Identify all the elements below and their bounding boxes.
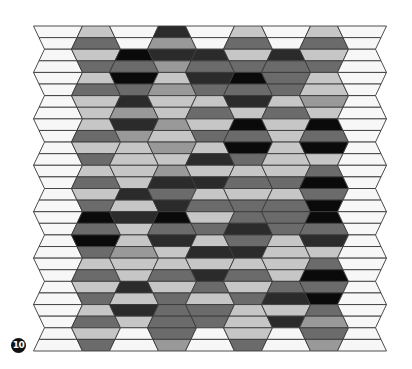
- stripe-segment: [115, 281, 153, 293]
- stripe-segment: [305, 119, 343, 131]
- stripe-segment: [305, 26, 343, 38]
- stripe-segment: [153, 339, 191, 351]
- stripe-segment: [229, 293, 267, 305]
- stripe-segment: [191, 270, 229, 282]
- stripe-segment: [267, 142, 305, 154]
- stripe-segment: [305, 247, 343, 259]
- stripe-segment: [262, 72, 311, 84]
- stripe-segment: [343, 189, 381, 201]
- stripe-segment: [338, 26, 387, 38]
- stripe-segment: [39, 235, 77, 247]
- stripe-segment: [229, 339, 267, 351]
- stripe-segment: [267, 223, 305, 235]
- stripe-segment: [115, 96, 153, 108]
- stripe-segment: [39, 189, 77, 201]
- stripe-segment: [72, 270, 121, 282]
- stripe-segment: [34, 165, 83, 177]
- stripe-segment: [186, 212, 235, 224]
- hexagon-quilt-pattern: [0, 0, 412, 369]
- stripe-segment: [115, 316, 153, 328]
- stripe-segment: [343, 281, 381, 293]
- stripe-segment: [39, 328, 77, 340]
- stripe-segment: [229, 212, 267, 224]
- stripe-segment: [153, 107, 191, 119]
- stripe-segment: [338, 154, 387, 166]
- stripe-segment: [338, 247, 387, 259]
- stripe-segment: [191, 189, 229, 201]
- stripe-segment: [34, 26, 83, 38]
- stripe-segment: [262, 258, 311, 270]
- stripe-segment: [34, 107, 83, 119]
- stripe-segment: [229, 165, 267, 177]
- stripe-segment: [262, 212, 311, 224]
- stripe-segment: [148, 328, 197, 340]
- stripe-segment: [300, 328, 349, 340]
- stripe-segment: [110, 212, 159, 224]
- stripe-segment: [305, 339, 343, 351]
- stripe-segment: [229, 107, 267, 119]
- stripe-segment: [148, 316, 197, 328]
- stripe-segment: [72, 189, 121, 201]
- stripe-segment: [186, 61, 235, 73]
- stripe-segment: [338, 339, 387, 351]
- stripe-segment: [262, 61, 311, 73]
- stripe-segment: [186, 339, 235, 351]
- stripe-segment: [34, 339, 83, 351]
- stripe-segment: [77, 258, 115, 270]
- stripe-segment: [148, 177, 197, 189]
- stripe-segment: [191, 177, 229, 189]
- stripe-segment: [300, 130, 349, 142]
- stripe-segment: [153, 200, 191, 212]
- stripe-segment: [300, 142, 349, 154]
- stripe-segment: [338, 61, 387, 73]
- stripe-segment: [224, 96, 273, 108]
- stripe-segment: [191, 130, 229, 142]
- stripe-segment: [115, 49, 153, 61]
- stripe-segment: [115, 38, 153, 50]
- stripe-segment: [148, 270, 197, 282]
- stripe-segment: [191, 235, 229, 247]
- stripe-segment: [338, 107, 387, 119]
- stripe-segment: [110, 165, 159, 177]
- stripe-segment: [72, 84, 121, 96]
- stripe-segment: [224, 84, 273, 96]
- stripe-segment: [191, 316, 229, 328]
- stripe-segment: [338, 165, 387, 177]
- stripe-segment: [267, 281, 305, 293]
- stripe-segment: [34, 119, 83, 131]
- stripe-segment: [110, 154, 159, 166]
- stripe-segment: [186, 107, 235, 119]
- stripe-segment: [110, 26, 159, 38]
- stripe-segment: [39, 84, 77, 96]
- stripe-segment: [267, 130, 305, 142]
- stripe-segment: [115, 130, 153, 142]
- stripe-segment: [186, 119, 235, 131]
- stripe-segment: [77, 247, 115, 259]
- stripe-segment: [305, 212, 343, 224]
- stripe-segment: [186, 165, 235, 177]
- stripe-segment: [72, 96, 121, 108]
- stripe-segment: [110, 107, 159, 119]
- stripe-segment: [77, 200, 115, 212]
- stripe-segment: [115, 270, 153, 282]
- stripe-segment: [34, 305, 83, 317]
- stripe-segment: [338, 72, 387, 84]
- stripe-segment: [77, 212, 115, 224]
- stripe-segment: [338, 305, 387, 317]
- stripe-segment: [338, 212, 387, 224]
- stripe-segment: [39, 38, 77, 50]
- stripe-segment: [72, 328, 121, 340]
- stripe-segment: [262, 154, 311, 166]
- stripe-segment: [338, 119, 387, 131]
- stripe-segment: [300, 270, 349, 282]
- stripe-segment: [267, 189, 305, 201]
- stripe-segment: [39, 49, 77, 61]
- stripe-segment: [110, 305, 159, 317]
- stripe-segment: [229, 247, 267, 259]
- stripe-segment: [267, 96, 305, 108]
- stripe-segment: [34, 258, 83, 270]
- stripe-segment: [153, 247, 191, 259]
- stripe-segment: [305, 154, 343, 166]
- stripe-segment: [77, 72, 115, 84]
- stripe-segment: [77, 154, 115, 166]
